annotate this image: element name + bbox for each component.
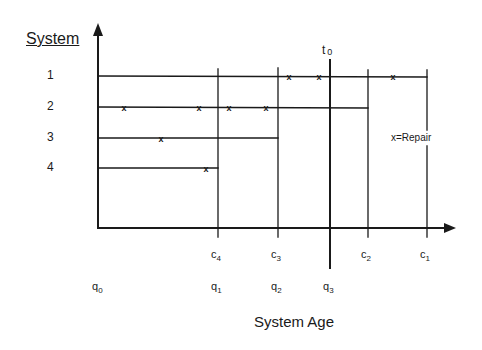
tick-q0: q0: [92, 280, 103, 295]
y-axis-label: System: [26, 30, 79, 48]
repair-mark-icon: x: [203, 164, 208, 174]
system-age-diagram: x x x x x x x x x: [0, 0, 482, 350]
x-axis-arrow-icon: [444, 223, 456, 233]
y-axis-arrow-icon: [93, 23, 103, 36]
repair-mark-icon: x: [121, 103, 126, 113]
repair-mark-icon: x: [316, 72, 321, 82]
legend-repair: x=Repair: [391, 132, 431, 143]
tick-c4: c4: [211, 248, 221, 263]
x-axis-label: System Age: [254, 313, 334, 330]
repair-mark-icon: x: [263, 103, 268, 113]
system-4-label: 4: [47, 160, 54, 174]
system-1-line: [98, 76, 427, 77]
tick-q2: q2: [271, 280, 282, 295]
system-2-line: [98, 107, 368, 108]
repair-mark-icon: x: [286, 72, 291, 82]
system-2-label: 2: [47, 99, 54, 113]
t0-label: t0: [322, 43, 332, 57]
tick-c2: c2: [361, 248, 371, 263]
tick-c1: c1: [420, 248, 430, 263]
repair-mark-icon: x: [158, 134, 163, 144]
repair-mark-icon: x: [226, 103, 231, 113]
tick-c3: c3: [271, 248, 281, 263]
repair-mark-icon: x: [196, 103, 201, 113]
tick-q3: q3: [323, 280, 334, 295]
tick-q1: q1: [211, 280, 222, 295]
system-1-label: 1: [47, 68, 54, 82]
repair-mark-icon: x: [390, 72, 395, 82]
system-3-label: 3: [47, 130, 54, 144]
